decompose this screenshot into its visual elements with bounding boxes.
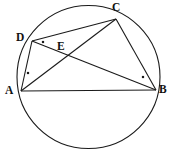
vertex-label-B: B <box>159 84 167 96</box>
geometry-figure: A B C D E <box>0 0 174 156</box>
vertex-label-D: D <box>16 32 24 44</box>
figure-canvas <box>0 0 174 156</box>
angle-mark-dot-at-D <box>42 41 44 43</box>
segment-DC <box>32 19 116 41</box>
vertex-label-A: A <box>5 85 13 97</box>
circumcircle <box>17 6 160 149</box>
segment-CB <box>116 19 156 90</box>
vertex-label-E: E <box>57 41 65 53</box>
angle-mark-dot-at-A <box>27 72 29 74</box>
segment-DB <box>32 41 156 90</box>
vertex-label-C: C <box>112 2 120 14</box>
segment-AB <box>21 90 156 91</box>
angle-mark-dot-at-B <box>142 76 144 78</box>
